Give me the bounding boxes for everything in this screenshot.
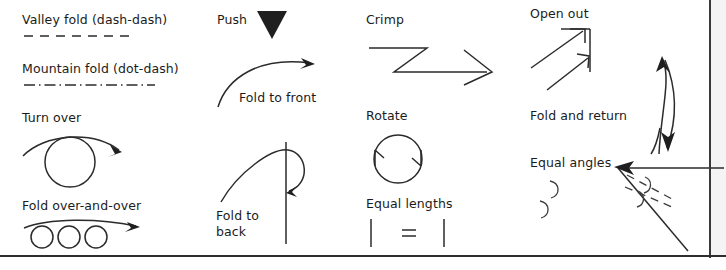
page-edge-right [709, 0, 711, 258]
label-crimp: Crimp [366, 12, 404, 27]
label-push: Push [217, 12, 247, 27]
crimp-icon [366, 40, 496, 85]
fold-to-front-icon [213, 48, 328, 110]
label-mountain-fold: Mountain fold (dot-dash) [22, 61, 179, 76]
open-out-icon [524, 24, 606, 94]
label-rotate: Rotate [366, 108, 408, 123]
fold-and-return-tail [648, 126, 688, 156]
mountain-fold-icon [22, 81, 157, 89]
label-fold-and-return: Fold and return [530, 108, 627, 123]
valley-fold-icon [22, 32, 132, 40]
push-icon [254, 8, 290, 42]
equal-angles-icon [528, 175, 588, 227]
label-equal-lengths: Equal lengths [366, 196, 453, 211]
label-valley-fold: Valley fold (dash-dash) [22, 12, 167, 27]
label-open-out: Open out [530, 6, 589, 21]
fold-to-back-icon [216, 140, 331, 250]
label-fold-over-and-over: Fold over-and-over [22, 198, 141, 213]
label-turn-over: Turn over [22, 110, 81, 125]
page-margin-bottom [0, 257, 726, 270]
fold-over-and-over-icon [18, 216, 153, 258]
origami-symbols-figure: Valley fold (dash-dash) Mountain fold (d… [0, 0, 726, 270]
equal-lengths-icon [366, 216, 456, 250]
rotate-icon [366, 128, 436, 190]
turn-over-icon [18, 128, 148, 190]
page-edge-bottom [0, 255, 726, 257]
